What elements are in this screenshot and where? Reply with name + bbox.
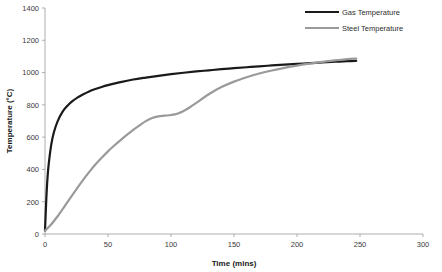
y-tick-label: 0 [35,230,39,239]
series-line-steel-temperature [45,59,356,231]
x-axis-ticks: 050100150200250300 [43,234,429,249]
y-tick-label: 600 [26,133,39,142]
x-tick-label: 150 [228,240,241,249]
chart-legend: Gas TemperatureSteel Temperature [305,8,403,33]
legend-label-gas-temperature: Gas Temperature [342,8,400,17]
y-axis-ticks: 0200400600800100012001400 [22,4,45,239]
y-tick-label: 800 [26,101,39,110]
y-tick-label: 200 [26,198,39,207]
x-tick-label: 200 [291,240,304,249]
y-tick-label: 1000 [22,68,39,77]
x-tick-label: 50 [104,240,112,249]
x-axis-title: Time (mins) [212,259,257,268]
y-axis-title: Temperature (°C) [5,88,14,153]
line-chart: 0200400600800100012001400 05010015020025… [0,0,442,272]
series-lines [45,59,356,231]
legend-label-steel-temperature: Steel Temperature [342,24,403,33]
x-tick-label: 0 [43,240,47,249]
x-tick-label: 250 [354,240,367,249]
y-tick-label: 1200 [22,36,39,45]
y-tick-label: 1400 [22,4,39,13]
x-tick-label: 100 [165,240,178,249]
x-tick-label: 300 [417,240,430,249]
series-line-gas-temperature [45,61,356,231]
chart-container: 0200400600800100012001400 05010015020025… [0,0,442,272]
y-tick-label: 400 [26,165,39,174]
